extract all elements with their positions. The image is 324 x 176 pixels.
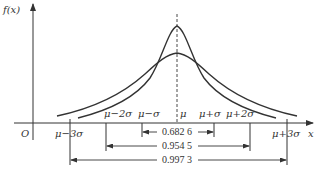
tick-label-mu: μ (180, 108, 187, 119)
tick-label-mu-minus-sigma: μ−σ (138, 108, 161, 119)
probability-2sigma: 0.954 5 (162, 140, 192, 151)
tick-label-mu-plus-2sigma: μ+2σ (226, 108, 255, 119)
interval-bracket-2sigma: 0.954 5 (107, 140, 249, 151)
tick-label-mu-plus-sigma: μ+σ (199, 108, 222, 119)
y-axis-label: f(x) (2, 4, 20, 15)
x-axis-label: x (308, 128, 314, 139)
interval-bracket-1sigma: 0.682 6 (143, 126, 213, 137)
probability-3sigma: 0.997 3 (162, 154, 192, 165)
interval-bracket-3sigma: 0.997 3 (71, 154, 286, 165)
tick-label-mu-minus-2sigma: μ−2σ (104, 108, 133, 119)
normal-distribution-diagram: f(x) x O μ−3σ μ−2σ μ−σ μ μ+σ μ+2σ μ+3σ 0… (0, 0, 324, 176)
origin-label: O (21, 128, 29, 139)
probability-1sigma: 0.682 6 (162, 126, 192, 137)
